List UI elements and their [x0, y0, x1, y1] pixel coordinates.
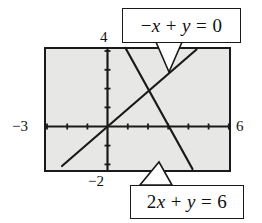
eq2-var-x: x — [157, 191, 166, 212]
x-axis-min-label: −3 — [12, 119, 28, 134]
eq2-coefficient: 2 — [147, 191, 157, 212]
equation-text-line1: −x + y = 0 — [141, 15, 223, 37]
eq1-var-y: y — [182, 15, 191, 36]
plot-area — [44, 47, 231, 172]
y-axis-max-label: 4 — [100, 30, 108, 45]
eq2-var-y: y — [187, 191, 196, 212]
graph-figure: 4 −3 6 −2 −x + y = 0 2x + y = 6 — [0, 0, 262, 223]
eq1-var-x: x — [152, 15, 161, 36]
eq1-equals: = — [191, 15, 212, 36]
equation-text-line2: 2x + y = 6 — [147, 191, 227, 213]
eq1-operator: + — [161, 15, 182, 36]
x-axis-max-label: 6 — [236, 119, 244, 134]
equation-callout-line2: 2x + y = 6 — [130, 185, 244, 219]
equation-callout-line1: −x + y = 0 — [122, 8, 241, 43]
eq1-rhs: 0 — [212, 15, 222, 36]
eq2-equals: = — [196, 191, 217, 212]
eq2-operator: + — [166, 191, 187, 212]
y-axis-min-label: −2 — [88, 174, 104, 189]
eq1-lead: − — [141, 15, 152, 36]
eq2-rhs: 6 — [217, 191, 227, 212]
